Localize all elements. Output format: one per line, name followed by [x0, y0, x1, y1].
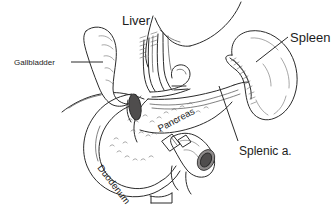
- spleen-structure: [226, 31, 297, 120]
- label-gallbladder: Gallbladder: [14, 58, 55, 67]
- label-splenic-artery: Splenic a.: [239, 144, 292, 158]
- label-spleen: Spleen: [290, 30, 330, 45]
- anatomy-figure: Liver Gallbladder Spleen Splenic a. Panc…: [0, 0, 334, 210]
- splenic-artery-leader-line: [219, 86, 238, 141]
- label-duodenum: Duodenum: [95, 162, 132, 205]
- label-pancreas: Pancreas: [156, 105, 197, 134]
- cut-bowel-limb: [162, 133, 218, 194]
- anatomy-illustration: Liver Gallbladder Spleen Splenic a. Panc…: [0, 0, 334, 210]
- label-liver: Liver: [122, 13, 151, 28]
